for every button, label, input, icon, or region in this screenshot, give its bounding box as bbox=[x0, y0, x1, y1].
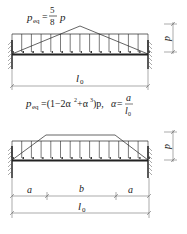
dim-a-right: a bbox=[128, 184, 133, 195]
span-label: l bbox=[76, 72, 79, 84]
svg-text:+α: +α bbox=[77, 98, 89, 109]
equivalent-load-formula: p eq =(1−2α 2 +α 3 )p, α= a l 0 bbox=[25, 92, 133, 117]
svg-text:p: p bbox=[25, 97, 32, 109]
formula-eq: = bbox=[42, 11, 48, 22]
svg-text:=(1−2α: =(1−2α bbox=[41, 98, 72, 110]
load-label: p bbox=[161, 144, 172, 150]
formula-den: 8 bbox=[50, 17, 55, 27]
svg-text:α=: α= bbox=[111, 98, 123, 109]
load-diagrams: p eq = 5 8 p bbox=[0, 0, 187, 234]
dim-b: b bbox=[79, 183, 84, 194]
diagram-trapezoidal-load: p a b a l 0 bbox=[8, 130, 177, 218]
formula-sub: eq bbox=[33, 17, 40, 25]
formula-p: p bbox=[26, 11, 33, 23]
formula-num: 5 bbox=[50, 5, 55, 15]
span-label: l bbox=[78, 200, 81, 212]
formula-rhs: p bbox=[59, 11, 66, 23]
dim-a-left: a bbox=[27, 184, 32, 195]
load-arrows bbox=[12, 34, 148, 52]
svg-text:0: 0 bbox=[128, 111, 131, 117]
load-label: p bbox=[161, 36, 172, 42]
span-sub: 0 bbox=[82, 206, 86, 214]
span-sub: 0 bbox=[80, 78, 84, 86]
svg-text:)p,: )p, bbox=[93, 98, 104, 110]
diagram-triangular-load: p eq = 5 8 p bbox=[8, 5, 177, 90]
svg-text:a: a bbox=[126, 92, 131, 103]
load-arrows bbox=[12, 141, 148, 158]
svg-text:eq: eq bbox=[32, 103, 39, 111]
